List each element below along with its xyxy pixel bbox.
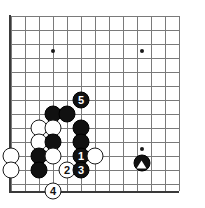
numbered-stone-3: 3: [73, 162, 90, 179]
triangle-mark-icon: [137, 160, 147, 168]
black-stone: [59, 106, 76, 123]
numbered-stone-4: 4: [45, 183, 62, 200]
grid-line-vertical: [25, 16, 26, 191]
grid-line-vertical: [123, 16, 124, 191]
stone-move-number: 1: [78, 150, 84, 161]
grid-line-vertical: [179, 16, 180, 191]
star-point: [140, 147, 144, 151]
black-stone: [31, 162, 48, 179]
grid-line-vertical: [53, 16, 54, 191]
grid-line-vertical: [95, 16, 96, 191]
grid-line-vertical: [109, 16, 110, 191]
triangle-marked-stone: [133, 155, 150, 172]
grid-line-vertical: [151, 16, 152, 191]
white-stone: [3, 162, 20, 179]
numbered-stone-5: 5: [73, 92, 90, 109]
star-point: [140, 49, 144, 53]
stone-move-number: 5: [78, 94, 84, 105]
grid-line-vertical: [165, 16, 166, 191]
stone-move-number: 2: [64, 164, 70, 175]
stone-move-number: 4: [50, 185, 56, 196]
white-stone: [87, 148, 104, 165]
go-board-diagram: 12345: [0, 0, 205, 208]
stone-move-number: 3: [78, 164, 84, 175]
white-stone: [45, 148, 62, 165]
board-edge-bottom: [9, 191, 179, 193]
star-point: [51, 49, 55, 53]
